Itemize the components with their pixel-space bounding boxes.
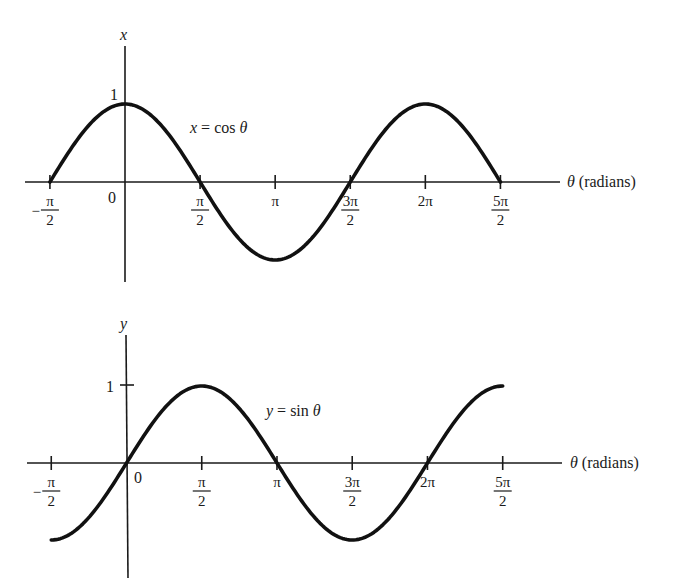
equation-label: y = sin θ xyxy=(264,402,321,420)
x-tick-label: π xyxy=(271,193,279,209)
x-tick-label-denominator: 2 xyxy=(348,493,356,509)
x-tick-label-denominator: 2 xyxy=(198,493,206,509)
origin-label: 0 xyxy=(108,189,116,206)
sin-plot: y 1 0 π2−π2π3π22π5π2 y = sin θ θ (radian… xyxy=(27,315,639,578)
ytick-label-1: 1 xyxy=(110,86,118,103)
x-tick-label-numerator: 3π xyxy=(345,474,361,490)
minus-sign: − xyxy=(31,203,39,219)
x-tick-label: 2π xyxy=(418,193,434,209)
x-tick-label-denominator: 2 xyxy=(347,212,355,228)
x-tick-label: π xyxy=(273,474,281,490)
origin-label: 0 xyxy=(134,469,142,486)
equation-label: x = cos θ xyxy=(189,119,247,136)
y-axis-label: x xyxy=(119,26,127,43)
y-axis-label: y xyxy=(118,315,128,333)
x-tick-label-numerator: 3π xyxy=(343,193,359,209)
x-tick-label-numerator: π xyxy=(196,193,204,209)
x-tick-label-denominator: 2 xyxy=(48,493,56,509)
minus-sign: − xyxy=(33,484,41,500)
x-tick-label-numerator: π xyxy=(47,474,55,490)
cos-plot: x 1 0 π2−π2π3π22π5π2 x = cos θ θ (radian… xyxy=(25,26,636,282)
x-tick-label-numerator: 5π xyxy=(495,474,511,490)
y-axis-vertical xyxy=(126,335,128,578)
x-tick-label-numerator: π xyxy=(198,474,206,490)
theta-axis-label: θ (radians) xyxy=(570,454,639,472)
x-tick-label-numerator: π xyxy=(46,193,54,209)
x-tick-label-denominator: 2 xyxy=(497,212,505,228)
x-tick-label: 2π xyxy=(420,474,436,490)
x-tick-label-numerator: 5π xyxy=(493,193,509,209)
x-tick-label-denominator: 2 xyxy=(499,493,507,509)
figure: x 1 0 π2−π2π3π22π5π2 x = cos θ θ (radian… xyxy=(0,0,686,585)
theta-axis-label: θ (radians) xyxy=(567,173,636,191)
x-tick-label-denominator: 2 xyxy=(196,212,204,228)
ytick-label-1: 1 xyxy=(106,378,114,395)
x-ticks: π2−π2π3π22π5π2 xyxy=(33,456,512,509)
x-tick-label-denominator: 2 xyxy=(46,212,54,228)
x-ticks: π2−π2π3π22π5π2 xyxy=(31,175,509,228)
